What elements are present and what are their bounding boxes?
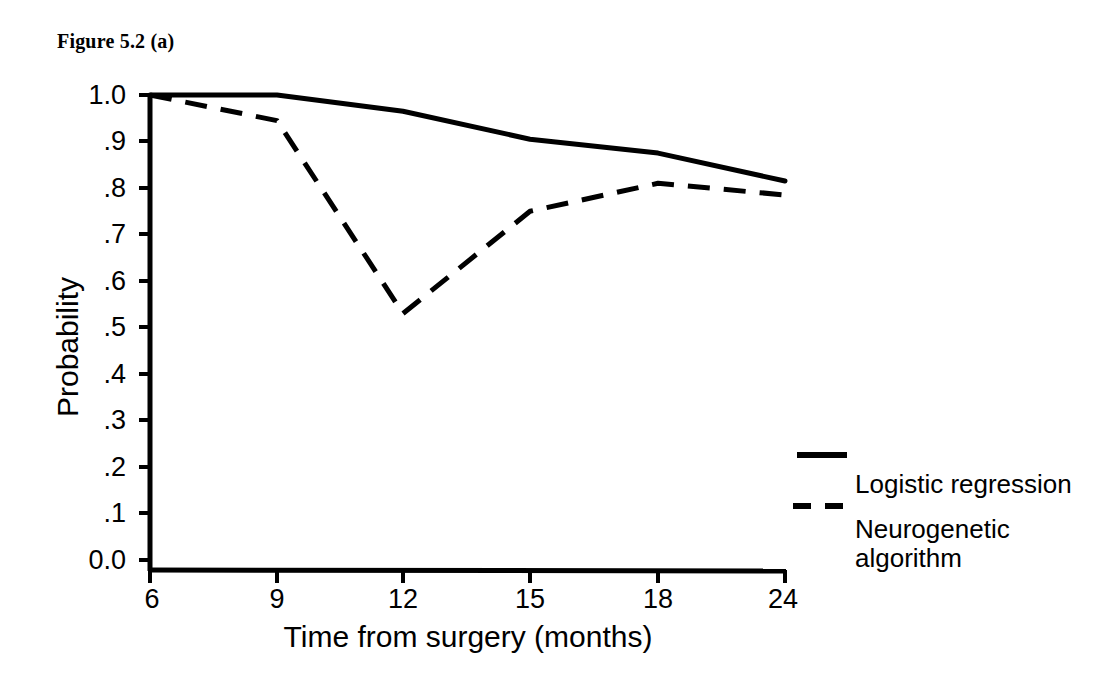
line-chart [0,0,1105,680]
x-tick-label: 6 [144,586,159,613]
y-axis-title: Probability [51,217,85,477]
x-tick-label: 12 [388,586,418,613]
legend-label-logistic-regression: Logistic regression [855,470,1072,499]
x-tick-label: 24 [768,586,798,613]
x-axis-title: Time from surgery (months) [150,620,786,654]
y-tick-label: .8 [58,175,126,202]
x-axis-line [148,570,786,571]
y-tick-label: 1.0 [58,82,126,109]
y-tick-label: .9 [58,128,126,155]
x-tick-label: 15 [515,586,545,613]
x-tick-label: 18 [643,586,673,613]
y-tick-label: .1 [58,500,126,527]
figure-page: Figure 5.2 (a) [0,0,1105,680]
x-tick-label: 9 [269,586,284,613]
series-line-logistic-regression [150,95,785,181]
y-tick-label: 0.0 [48,547,126,574]
legend-label-neurogenetic-algorithm: Neurogenetic algorithm [855,515,1010,573]
